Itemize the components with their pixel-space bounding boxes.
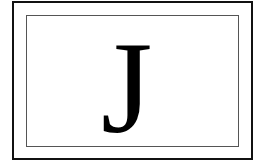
inner-border-frame: J <box>26 15 239 147</box>
letter-card: J <box>27 16 238 146</box>
letter-glyph: J <box>101 22 152 154</box>
